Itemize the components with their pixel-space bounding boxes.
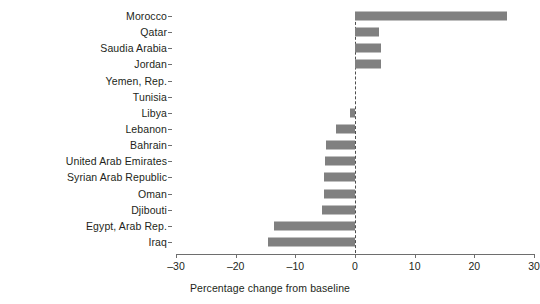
category-axis: MoroccoQatarSaudia ArabiaJordanYemen, Re… [0,8,172,250]
x-tick-label: 10 [409,260,421,272]
category-label-row: Yemen, Rep. [0,73,172,89]
bar [325,157,355,166]
category-label: Lebanon [125,123,172,135]
bar [324,173,355,182]
category-label-row: Oman [0,185,172,201]
category-label-row: Tunisia [0,89,172,105]
category-tick-mark [168,194,172,195]
category-label: Djibouti [131,204,172,216]
bar-row [176,105,534,121]
bar-row [176,153,534,169]
category-label: Yemen, Rep. [106,75,172,87]
bar-row [176,202,534,218]
bar-row [176,218,534,234]
bar [326,141,355,150]
x-tick-mark [355,254,356,258]
bar [322,205,355,214]
category-label: Morocco [126,10,172,22]
bar-row [176,8,534,24]
x-tick-mark [534,254,535,258]
category-label: Saudia Arabia [100,42,172,54]
category-label-row: Iraq [0,234,172,250]
x-axis-title: Percentage change from baseline [0,282,540,294]
x-tick-mark [295,254,296,258]
x-tick-mark [176,254,177,258]
category-tick-mark [168,16,172,17]
bar [336,124,355,133]
category-label: Syrian Arab Republic [67,171,172,183]
x-tick-mark [474,254,475,258]
bar-row [176,137,534,153]
category-tick-mark [168,81,172,82]
bar-row [176,169,534,185]
plot-area [176,8,534,250]
category-label: Tunisia [133,91,172,103]
x-tick-mark [236,254,237,258]
category-label: Oman [138,188,172,200]
category-label-row: Djibouti [0,202,172,218]
category-label-row: Qatar [0,24,172,40]
x-tick-label: 30 [528,260,540,272]
bar [324,189,355,198]
category-tick-mark [168,177,172,178]
bar-row [176,89,534,105]
bar [268,237,355,246]
category-tick-mark [168,48,172,49]
bar [274,221,355,230]
bar [355,28,379,37]
bar [355,12,507,21]
category-label-row: Syrian Arab Republic [0,169,172,185]
category-tick-mark [168,64,172,65]
bar [355,60,381,69]
category-tick-mark [168,129,172,130]
x-tick-label: –30 [167,260,185,272]
x-tick-label: –20 [227,260,245,272]
bar-row [176,234,534,250]
category-label: United Arab Emirates [66,155,172,167]
category-tick-mark [168,226,172,227]
x-tick-label: 20 [468,260,480,272]
category-tick-mark [168,242,172,243]
bar-row [176,73,534,89]
category-label-row: Jordan [0,56,172,72]
category-tick-mark [168,145,172,146]
bar [355,44,381,53]
category-label: Bahrain [130,139,172,151]
bar-row [176,40,534,56]
x-tick-label: 0 [352,260,358,272]
category-tick-mark [168,97,172,98]
category-label-row: United Arab Emirates [0,153,172,169]
category-label-row: Morocco [0,8,172,24]
category-tick-mark [168,161,172,162]
bar-row [176,24,534,40]
category-label-row: Lebanon [0,121,172,137]
bar-row [176,185,534,201]
category-tick-mark [168,32,172,33]
x-tick-mark [415,254,416,258]
category-label: Jordan [134,58,172,70]
x-axis: –30–20–100102030 [176,254,534,255]
bar [350,108,355,117]
category-label: Egypt, Arab Rep. [86,220,172,232]
category-label-row: Saudia Arabia [0,40,172,56]
bar-row [176,121,534,137]
category-label-row: Bahrain [0,137,172,153]
category-tick-mark [168,113,172,114]
bar-chart: MoroccoQatarSaudia ArabiaJordanYemen, Re… [0,0,540,304]
category-label-row: Libya [0,105,172,121]
category-label-row: Egypt, Arab Rep. [0,218,172,234]
bar-row [176,56,534,72]
category-tick-mark [168,210,172,211]
x-tick-label: –10 [287,260,305,272]
